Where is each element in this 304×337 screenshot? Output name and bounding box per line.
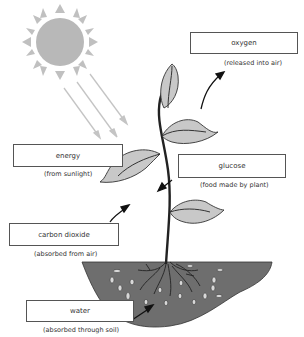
carbon-dioxide-label: carbon dioxide bbox=[38, 231, 90, 239]
glucose-label: glucose bbox=[219, 162, 246, 170]
glucose-caption: (food made by plant) bbox=[200, 181, 269, 189]
carbon-dioxide-label-box: carbon dioxide bbox=[9, 223, 119, 246]
oxygen-label-box: oxygen bbox=[190, 32, 298, 54]
energy-label: energy bbox=[56, 152, 80, 160]
oxygen-label: oxygen bbox=[231, 39, 257, 47]
sun-icon bbox=[22, 4, 98, 80]
water-caption: (absorbed through soil) bbox=[43, 326, 119, 334]
energy-caption: (from sunlight) bbox=[44, 170, 92, 178]
carbon-dioxide-caption: (absorbed from air) bbox=[34, 250, 97, 258]
water-label: water bbox=[70, 307, 90, 315]
glucose-label-box: glucose bbox=[178, 154, 286, 178]
sunlight-rays bbox=[64, 74, 127, 138]
oxygen-caption: (released into air) bbox=[224, 59, 282, 67]
energy-label-box: energy bbox=[13, 144, 123, 167]
water-label-box: water bbox=[26, 300, 134, 322]
